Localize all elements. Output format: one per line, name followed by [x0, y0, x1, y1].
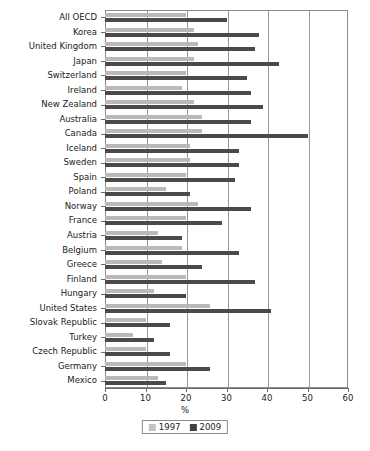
bar-1997 [105, 57, 194, 61]
x-axis-tick [267, 388, 268, 392]
y-axis-label: Poland [0, 184, 101, 199]
bar-2009 [105, 178, 235, 182]
y-axis-label: Czech Republic [0, 344, 101, 359]
x-axis-tick-label: 40 [262, 393, 273, 403]
y-axis-label: Iceland [0, 141, 101, 156]
bar-group [105, 54, 348, 69]
bar-1997 [105, 28, 194, 32]
x-axis-tick-label: 10 [140, 393, 151, 403]
bar-group [105, 126, 348, 141]
bar-group [105, 330, 348, 345]
y-axis-labels: All OECDKoreaUnited KingdomJapanSwitzerl… [0, 10, 101, 388]
y-axis-tick [101, 323, 105, 324]
y-axis-tick [101, 206, 105, 207]
x-axis-tick [105, 388, 106, 392]
y-axis-tick [101, 279, 105, 280]
bar-2009 [105, 251, 239, 255]
y-axis-label: Finland [0, 272, 101, 287]
legend-label: 1997 [159, 422, 181, 432]
bar-1997 [105, 187, 166, 191]
bar-2009 [105, 323, 170, 327]
bar-1997 [105, 158, 190, 162]
x-axis-tick [348, 388, 349, 392]
bar-1997 [105, 318, 146, 322]
bar-1997 [105, 202, 198, 206]
bar-1997 [105, 347, 146, 351]
y-axis-tick [101, 308, 105, 309]
bar-group [105, 213, 348, 228]
bar-2009 [105, 149, 239, 153]
bar-2009 [105, 294, 186, 298]
y-axis-label: Sweden [0, 155, 101, 170]
x-axis-tick-label: 50 [302, 393, 313, 403]
y-axis-tick [101, 32, 105, 33]
y-axis-tick [101, 105, 105, 106]
bar-group [105, 272, 348, 287]
bar-2009 [105, 309, 271, 313]
bar-2009 [105, 47, 255, 51]
x-axis-tick [308, 388, 309, 392]
x-axis-tick [186, 388, 187, 392]
bar-1997 [105, 333, 133, 337]
legend-swatch-icon [190, 424, 197, 431]
bar-group [105, 25, 348, 40]
y-axis-label: Austria [0, 228, 101, 243]
y-axis-tick [101, 337, 105, 338]
bar-group [105, 39, 348, 54]
y-axis-label: Switzerland [0, 68, 101, 83]
y-axis-tick [101, 17, 105, 18]
x-axis-tick-label: 30 [221, 393, 232, 403]
y-axis-tick [101, 192, 105, 193]
x-axis-tick-label: 0 [102, 393, 107, 403]
bar-group [105, 228, 348, 243]
y-axis-tick [101, 75, 105, 76]
y-axis-label: All OECD [0, 10, 101, 25]
y-axis-tick [101, 119, 105, 120]
x-axis-tick-label: 20 [181, 393, 192, 403]
y-axis-label: Germany [0, 359, 101, 374]
y-axis-label: Hungary [0, 286, 101, 301]
y-axis-tick [101, 264, 105, 265]
bar-1997 [105, 216, 186, 220]
bar-group [105, 373, 348, 388]
y-axis-label: Ireland [0, 83, 101, 98]
bar-2009 [105, 120, 251, 124]
bar-1997 [105, 115, 202, 119]
y-axis-label: Norway [0, 199, 101, 214]
legend-item-2009: 2009 [190, 422, 222, 432]
bar-group [105, 286, 348, 301]
bar-1997 [105, 129, 202, 133]
bar-1997 [105, 376, 158, 380]
bar-group [105, 170, 348, 185]
bar-group [105, 10, 348, 25]
y-axis-label: Spain [0, 170, 101, 185]
bar-group [105, 257, 348, 272]
bar-1997 [105, 86, 182, 90]
bar-1997 [105, 304, 210, 308]
bar-1997 [105, 42, 198, 46]
y-axis-label: Canada [0, 126, 101, 141]
x-axis-title: % [0, 405, 370, 415]
y-axis-label: United Kingdom [0, 39, 101, 54]
bar-group [105, 141, 348, 156]
bar-1997 [105, 13, 186, 17]
y-axis-tick [101, 250, 105, 251]
bar-group [105, 112, 348, 127]
y-axis-tick [101, 61, 105, 62]
y-axis-label: Japan [0, 54, 101, 69]
bar-2009 [105, 18, 227, 22]
bar-2009 [105, 381, 166, 385]
y-axis-tick [101, 366, 105, 367]
bar-2009 [105, 192, 190, 196]
bar-group [105, 243, 348, 258]
bar-2009 [105, 33, 259, 37]
bar-2009 [105, 76, 247, 80]
bar-1997 [105, 260, 162, 264]
y-axis-label: Korea [0, 25, 101, 40]
bar-rows [105, 10, 348, 388]
bar-1997 [105, 144, 190, 148]
bar-group [105, 315, 348, 330]
y-axis-tick [101, 90, 105, 91]
bar-2009 [105, 265, 202, 269]
legend-item-1997: 1997 [149, 422, 181, 432]
